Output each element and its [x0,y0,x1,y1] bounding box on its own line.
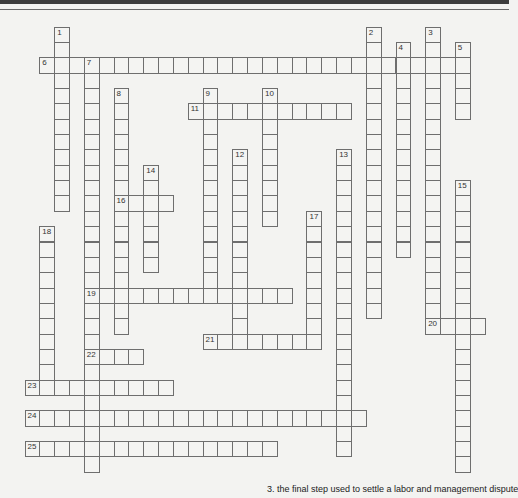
crossword-cell[interactable] [306,410,322,426]
crossword-cell[interactable] [336,242,352,258]
crossword-cell[interactable] [262,134,278,150]
crossword-cell[interactable]: 10 [262,88,278,104]
crossword-cell[interactable] [217,441,233,457]
crossword-cell[interactable] [366,103,382,119]
crossword-cell[interactable] [366,257,382,273]
crossword-cell[interactable] [336,395,352,411]
crossword-cell[interactable] [351,57,367,73]
crossword-cell[interactable] [69,441,85,457]
crossword-cell[interactable] [128,349,144,365]
crossword-cell[interactable] [336,257,352,273]
crossword-cell[interactable] [455,380,471,396]
crossword-cell[interactable] [203,119,219,135]
crossword-cell[interactable] [366,88,382,104]
crossword-cell[interactable]: 7 [84,57,100,73]
crossword-cell[interactable] [84,88,100,104]
crossword-cell[interactable] [128,288,144,304]
crossword-cell[interactable]: 23 [25,380,41,396]
crossword-cell[interactable] [39,303,55,319]
crossword-cell[interactable] [455,73,471,89]
crossword-cell[interactable] [366,288,382,304]
crossword-cell[interactable] [455,242,471,258]
crossword-cell[interactable] [262,103,278,119]
crossword-cell[interactable] [173,288,189,304]
crossword-cell[interactable] [203,257,219,273]
crossword-cell[interactable] [292,410,308,426]
crossword-cell[interactable] [455,364,471,380]
crossword-cell[interactable] [336,410,352,426]
crossword-cell[interactable] [232,226,248,242]
crossword-cell[interactable] [84,364,100,380]
crossword-cell[interactable] [396,134,412,150]
crossword-cell[interactable] [455,395,471,411]
crossword-cell[interactable]: 2 [366,27,382,43]
crossword-cell[interactable] [39,441,55,457]
crossword-cell[interactable] [425,42,441,58]
crossword-cell[interactable] [84,303,100,319]
crossword-cell[interactable] [455,349,471,365]
crossword-cell[interactable] [84,149,100,165]
crossword-cell[interactable] [396,119,412,135]
crossword-cell[interactable] [54,380,70,396]
crossword-cell[interactable] [158,195,174,211]
crossword-cell[interactable]: 14 [143,165,159,181]
crossword-cell[interactable] [396,226,412,242]
crossword-cell[interactable] [114,303,130,319]
crossword-cell[interactable] [425,134,441,150]
crossword-cell[interactable] [39,410,55,426]
crossword-cell[interactable] [247,57,263,73]
crossword-cell[interactable] [143,380,159,396]
crossword-cell[interactable]: 1 [54,27,70,43]
crossword-cell[interactable] [455,195,471,211]
crossword-cell[interactable] [425,242,441,258]
crossword-cell[interactable] [173,441,189,457]
crossword-cell[interactable] [188,288,204,304]
crossword-cell[interactable] [247,103,263,119]
crossword-cell[interactable] [54,180,70,196]
crossword-cell[interactable] [455,257,471,273]
crossword-cell[interactable] [143,441,159,457]
crossword-cell[interactable] [247,334,263,350]
crossword-cell[interactable] [54,103,70,119]
crossword-cell[interactable] [396,57,412,73]
crossword-cell[interactable] [99,380,115,396]
crossword-cell[interactable] [336,272,352,288]
crossword-cell[interactable] [306,318,322,334]
crossword-cell[interactable] [262,149,278,165]
crossword-cell[interactable] [425,73,441,89]
crossword-cell[interactable] [203,103,219,119]
crossword-cell[interactable] [425,195,441,211]
crossword-cell[interactable] [203,288,219,304]
crossword-cell[interactable] [217,410,233,426]
crossword-cell[interactable] [396,211,412,227]
crossword-cell[interactable] [425,303,441,319]
crossword-cell[interactable] [99,410,115,426]
crossword-cell[interactable]: 15 [455,180,471,196]
crossword-cell[interactable] [232,303,248,319]
crossword-cell[interactable]: 9 [203,88,219,104]
crossword-cell[interactable] [336,103,352,119]
crossword-cell[interactable] [425,149,441,165]
crossword-cell[interactable] [232,334,248,350]
crossword-cell[interactable] [158,57,174,73]
crossword-cell[interactable] [336,380,352,396]
crossword-cell[interactable] [69,380,85,396]
crossword-cell[interactable] [143,195,159,211]
crossword-cell[interactable] [262,334,278,350]
crossword-cell[interactable] [425,57,441,73]
crossword-cell[interactable] [262,165,278,181]
crossword-cell[interactable] [217,288,233,304]
crossword-cell[interactable] [114,242,130,258]
crossword-cell[interactable] [366,57,382,73]
crossword-cell[interactable] [143,242,159,258]
crossword-cell[interactable] [84,410,100,426]
crossword-cell[interactable] [84,226,100,242]
crossword-cell[interactable] [114,119,130,135]
crossword-cell[interactable] [84,73,100,89]
crossword-cell[interactable] [143,57,159,73]
crossword-cell[interactable] [396,103,412,119]
crossword-cell[interactable] [336,303,352,319]
crossword-cell[interactable] [366,303,382,319]
crossword-cell[interactable] [114,149,130,165]
crossword-cell[interactable] [114,180,130,196]
